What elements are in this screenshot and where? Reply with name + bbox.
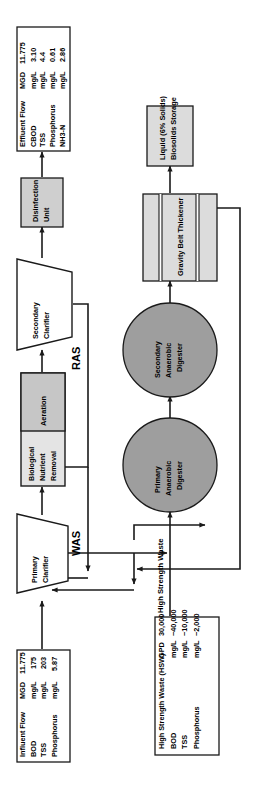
influent-title: Influent Flow	[18, 712, 27, 757]
influent-row3-unit: mg/L	[50, 681, 59, 699]
disinfection-unit[interactable]: Disinfection Unit	[21, 178, 63, 227]
hsw-row1-unit: mg/L	[169, 640, 178, 658]
effluent-title-unit: MGD	[18, 72, 27, 89]
hsw-title-value: 30,000	[157, 614, 166, 636]
hsw-row2-unit: mg/L	[180, 640, 189, 658]
secondary-digester-label-line3: Digester	[175, 343, 184, 372]
biological-treatment-unit[interactable]: Aeration Biological Nutrient Removal	[21, 373, 65, 486]
influent-title-value: 11.775	[18, 652, 27, 674]
influent-row1-param: BOD	[29, 741, 38, 757]
ras-stream-label: RAS	[70, 347, 82, 370]
hsw-title-unit: GPD	[157, 642, 166, 658]
bnr-label-line1: Biological	[27, 447, 36, 481]
hsw-row1-value: ~40,000	[169, 609, 178, 636]
bnr-label-line2: Nutrient	[38, 453, 47, 481]
secondary-clarifier-label-line1: Secondary	[31, 302, 40, 339]
influent-row2-value: 203	[39, 657, 48, 669]
gravity-belt-thickener-label: Gravity Belt Thickener	[176, 197, 185, 276]
influent-row1-unit: mg/L	[29, 681, 38, 699]
hsw-row3-unit: mg/L	[192, 640, 201, 658]
secondary-clarifier-label-line2: Clarifier	[42, 312, 51, 339]
influent-row2-param: TSS	[39, 743, 48, 757]
aeration-label: Aeration	[39, 396, 48, 426]
secondary-anaerobic-digester-unit[interactable]: Secondary Anaerobic Digester	[123, 303, 217, 397]
influent-title-unit: MGD	[18, 682, 27, 699]
hsw-row3-param: Phosphorus	[192, 706, 201, 749]
hsw-data-box: High Strength Waste (HSW) GPD 30,000 BOD…	[155, 609, 219, 755]
disinfection-unit-label-line1: Disinfection	[31, 179, 40, 222]
secondary-digester-label-line2: Anaerobic	[164, 343, 173, 378]
aeration-zone[interactable]: Aeration	[39, 396, 48, 426]
biosolids-storage-unit[interactable]: Liquid (6% Solids) Biosolids Storage	[147, 95, 193, 166]
effluent-row4-value: 2.86	[58, 48, 67, 62]
effluent-title-value: 11.775	[18, 42, 27, 64]
was-stream-label: WAS	[70, 531, 82, 556]
effluent-row2-unit: mg/L	[38, 71, 47, 89]
secondary-clarifier-unit[interactable]: Secondary Clarifier	[17, 259, 72, 350]
primary-digester-label-line1: Primary	[153, 466, 162, 493]
influent-row1-value: 175	[29, 657, 38, 669]
effluent-row1-value: 3.10	[29, 48, 38, 62]
secondary-digester-label-line1: Secondary	[153, 341, 162, 378]
effluent-row2-param: TSS	[38, 133, 47, 147]
effluent-row3-unit: mg/L	[48, 71, 57, 89]
primary-clarifier-label-line1: Primary	[30, 556, 39, 583]
process-flow-diagram: Effluent Flow MGD 11.775 CBOD mg/L 3.10 …	[0, 0, 256, 793]
effluent-row1-param: CBOD	[29, 126, 38, 148]
primary-anaerobic-digester-unit[interactable]: Primary Anaerobic Digester	[123, 418, 217, 512]
disinfection-unit-label-line2: Unit	[42, 207, 51, 222]
biosolids-storage-label-line2: Biosolids Storage	[169, 97, 178, 160]
hsw-row2-value: ~10,000	[180, 609, 189, 636]
bnr-label-line3: Removal	[49, 451, 58, 481]
effluent-row3-param: Phosphorus	[48, 104, 57, 147]
effluent-row4-param: NH3-N	[58, 125, 67, 147]
primary-digester-label-line3: Digester	[175, 461, 184, 490]
effluent-data-box: Effluent Flow MGD 11.775 CBOD mg/L 3.10 …	[17, 27, 70, 151]
influent-data-box: Influent Flow MGD 11.775 BOD mg/L 175 TS…	[17, 650, 70, 762]
gravity-belt-thickener-unit[interactable]: Gravity Belt Thickener	[143, 194, 217, 281]
effluent-row4-unit: mg/L	[58, 71, 67, 89]
biosolids-storage-label-line1: Liquid (6% Solids)	[158, 95, 167, 160]
effluent-row3-value: 0.61	[48, 48, 57, 62]
effluent-title: Effluent Flow	[18, 101, 27, 147]
effluent-row1-unit: mg/L	[29, 71, 38, 89]
hsw-title: High Strength Waste (HSW)	[157, 653, 166, 749]
primary-clarifier-label-line2: Clarifier	[41, 556, 50, 583]
hsw-row2-param: TSS	[180, 735, 189, 749]
primary-clarifier-unit[interactable]: Primary Clarifier	[17, 514, 68, 593]
primary-digester-label-line2: Anaerobic	[164, 461, 173, 496]
flow-diagram-canvas: Effluent Flow MGD 11.775 CBOD mg/L 3.10 …	[0, 0, 256, 793]
influent-row2-unit: mg/L	[39, 681, 48, 699]
hsw-row3-value: ~2,000	[192, 613, 201, 636]
influent-row3-value: 5.87	[50, 657, 59, 671]
influent-row3-param: Phosphorus	[50, 714, 59, 757]
effluent-row2-value: 4.4	[38, 51, 47, 62]
hsw-row1-param: BOD	[169, 733, 178, 749]
